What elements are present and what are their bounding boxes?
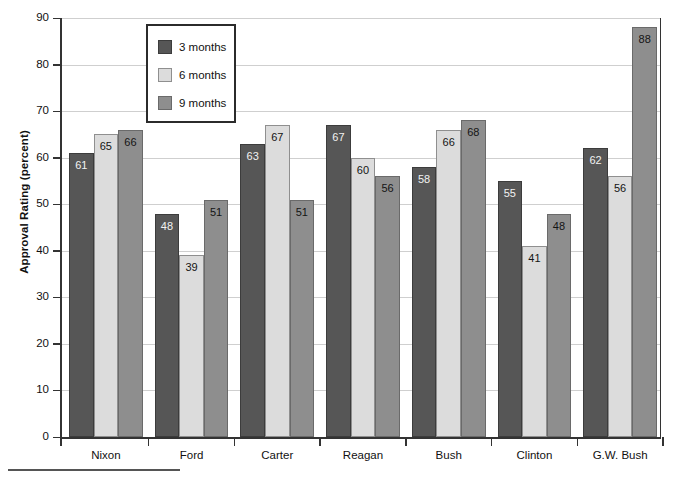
- bar[interactable]: 48: [547, 214, 572, 437]
- bar[interactable]: 67: [326, 125, 351, 437]
- y-tick-label: 60: [0, 151, 60, 165]
- y-tick-label: 40: [0, 244, 60, 258]
- bar-group: 616566: [69, 18, 143, 437]
- bar[interactable]: 51: [290, 200, 315, 437]
- bar-value-label: 61: [70, 160, 93, 171]
- bar-value-label: 51: [291, 207, 314, 218]
- bar[interactable]: 62: [583, 148, 608, 437]
- bar-value-label: 88: [633, 34, 656, 45]
- legend-item[interactable]: 6 months: [158, 67, 226, 83]
- bar-value-label: 66: [119, 137, 142, 148]
- y-tick-mark: [53, 18, 61, 20]
- bar[interactable]: 58: [412, 167, 437, 437]
- bar[interactable]: 61: [69, 153, 94, 437]
- x-axis-label: Clinton: [489, 449, 579, 461]
- bar-value-label: 66: [437, 137, 460, 148]
- y-tick-label: 20: [0, 337, 60, 351]
- y-tick-mark: [53, 390, 61, 392]
- legend-item-label: 9 months: [179, 97, 226, 109]
- bar[interactable]: 55: [498, 181, 523, 437]
- bar[interactable]: 60: [351, 158, 376, 437]
- legend-swatch-icon: [158, 68, 172, 82]
- x-axis-label: G.W. Bush: [575, 449, 665, 461]
- bar-group: 636751: [240, 18, 314, 437]
- bar-group: 676056: [326, 18, 400, 437]
- bar-value-label: 51: [205, 207, 228, 218]
- bar-value-label: 68: [462, 127, 485, 138]
- bar[interactable]: 56: [608, 176, 633, 437]
- footer-rule: [8, 469, 180, 471]
- bar[interactable]: 56: [375, 176, 400, 437]
- y-tick-label: 70: [0, 104, 60, 118]
- bar-value-label: 67: [266, 132, 289, 143]
- y-tick-mark: [53, 250, 61, 252]
- x-axis-line: [61, 437, 661, 439]
- bar-group: 586668: [412, 18, 486, 437]
- x-tick-mark: [577, 437, 579, 446]
- y-tick-label: 90: [0, 11, 60, 25]
- x-tick-mark: [60, 437, 62, 446]
- bar[interactable]: 88: [632, 27, 657, 437]
- x-tick-mark: [662, 437, 664, 446]
- bar[interactable]: 65: [94, 134, 119, 437]
- bar[interactable]: 51: [204, 200, 229, 437]
- y-tick-label: 0: [0, 430, 60, 444]
- bar[interactable]: 39: [179, 255, 204, 437]
- y-tick-mark: [53, 204, 61, 206]
- x-tick-mark: [234, 437, 236, 446]
- y-tick-mark: [53, 111, 61, 113]
- legend-item[interactable]: 3 months: [158, 39, 226, 55]
- bar[interactable]: 41: [522, 246, 547, 437]
- x-axis-label: Carter: [232, 449, 322, 461]
- x-tick-mark: [319, 437, 321, 446]
- x-axis-label: Nixon: [61, 449, 151, 461]
- bar-value-label: 65: [95, 141, 118, 152]
- bar[interactable]: 66: [436, 130, 461, 437]
- bar-group: 625688: [583, 18, 657, 437]
- bar-value-label: 60: [352, 165, 375, 176]
- bar-value-label: 39: [180, 262, 203, 273]
- legend-swatch-icon: [158, 96, 172, 110]
- bar[interactable]: 67: [265, 125, 290, 437]
- bar[interactable]: 48: [155, 214, 180, 437]
- y-tick-mark: [53, 64, 61, 66]
- y-tick-label: 80: [0, 58, 60, 72]
- x-tick-mark: [148, 437, 150, 446]
- bar[interactable]: 68: [461, 120, 486, 437]
- y-tick-mark: [53, 157, 61, 159]
- bar-value-label: 62: [584, 155, 607, 166]
- bar-value-label: 63: [241, 151, 264, 162]
- x-tick-mark: [491, 437, 493, 446]
- bar-value-label: 56: [609, 183, 632, 194]
- approval-rating-bar-chart: Approval Rating (percent) 01020304050607…: [0, 0, 675, 481]
- chart-legend: 3 months6 months9 months: [146, 24, 236, 123]
- x-axis-label: Ford: [147, 449, 237, 461]
- x-tick-mark: [405, 437, 407, 446]
- legend-swatch-icon: [158, 40, 172, 54]
- bar-value-label: 67: [327, 132, 350, 143]
- y-tick-mark: [53, 343, 61, 345]
- bar-value-label: 48: [156, 221, 179, 232]
- bar-value-label: 56: [376, 183, 399, 194]
- x-axis-label: Bush: [404, 449, 494, 461]
- legend-item-label: 3 months: [179, 41, 226, 53]
- bar-value-label: 41: [523, 253, 546, 264]
- x-axis-label: Reagan: [318, 449, 408, 461]
- bar-value-label: 55: [499, 188, 522, 199]
- y-tick-label: 10: [0, 383, 60, 397]
- legend-item[interactable]: 9 months: [158, 95, 226, 111]
- y-tick-label: 30: [0, 290, 60, 304]
- bar[interactable]: 63: [240, 144, 265, 437]
- y-tick-mark: [53, 297, 61, 299]
- bar-group: 554148: [498, 18, 572, 437]
- bar-value-label: 58: [413, 174, 436, 185]
- legend-item-label: 6 months: [179, 69, 226, 81]
- bar-value-label: 48: [548, 221, 571, 232]
- bar[interactable]: 66: [118, 130, 143, 437]
- y-tick-label: 50: [0, 197, 60, 211]
